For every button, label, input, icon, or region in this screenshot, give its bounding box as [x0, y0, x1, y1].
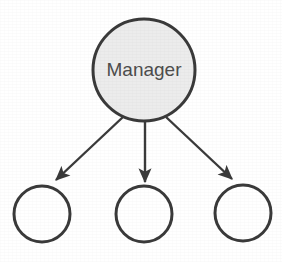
- node-layer: Manager: [14, 19, 271, 242]
- worker-3-circle[interactable]: [215, 185, 271, 241]
- node-worker-2[interactable]: [116, 186, 172, 242]
- node-link-diagram: Manager: [0, 0, 282, 262]
- worker-2-circle[interactable]: [116, 186, 172, 242]
- node-worker-3[interactable]: [215, 185, 271, 241]
- worker-1-circle[interactable]: [14, 186, 70, 242]
- node-worker-1[interactable]: [14, 186, 70, 242]
- edge-manager-to-worker-3: [166, 117, 232, 179]
- edge-layer: [56, 117, 232, 182]
- diagram-canvas: Manager: [0, 0, 282, 262]
- manager-label: Manager: [107, 59, 183, 80]
- node-manager[interactable]: Manager: [93, 19, 195, 121]
- edge-manager-to-worker-1: [56, 117, 123, 180]
